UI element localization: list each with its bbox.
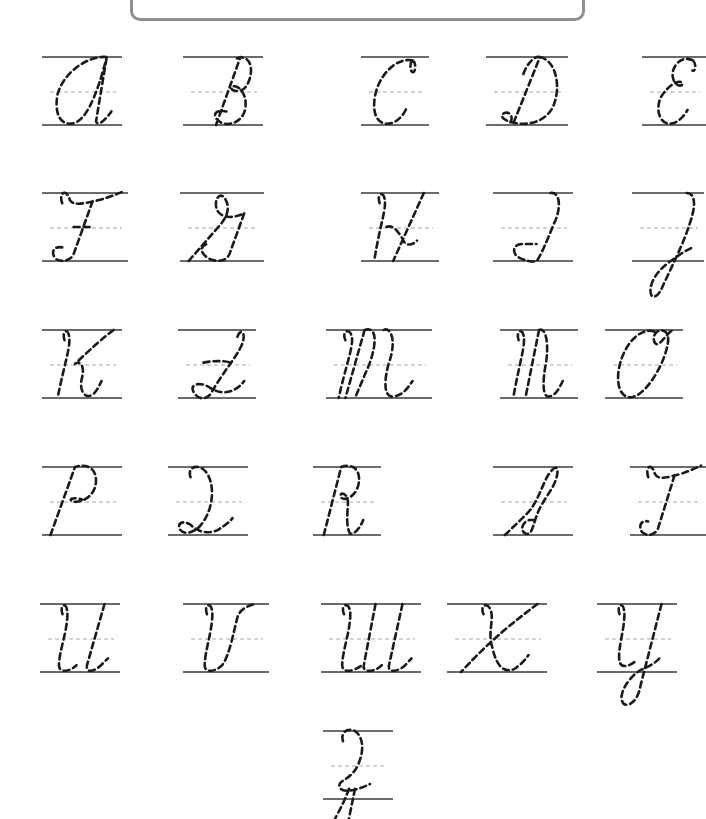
cursive-letter-c-guide	[361, 57, 429, 125]
tracing-cell-d: D	[486, 57, 568, 125]
cursive-letter-u-guide	[40, 604, 120, 672]
cursive-letter-l-guide	[178, 330, 256, 398]
tracing-cell-u: U	[40, 604, 120, 672]
tracing-cell-x: X	[447, 604, 547, 672]
tracing-cell-i: I	[493, 193, 573, 261]
dashed-trace-stroke	[205, 604, 255, 671]
cursive-letter-m-guide	[326, 330, 432, 398]
dashed-trace-stroke	[619, 604, 662, 705]
tracing-cell-f: F	[42, 193, 128, 261]
dashed-trace-stroke	[461, 604, 538, 672]
tracing-cell-r: R	[313, 467, 381, 535]
cursive-letter-k-guide	[42, 330, 122, 398]
dashed-trace-stroke	[179, 467, 232, 533]
dashed-trace-stroke	[502, 57, 557, 125]
cursive-letter-a-guide	[42, 57, 122, 125]
cursive-letter-j-guide	[632, 193, 704, 261]
dashed-trace-stroke	[342, 604, 411, 671]
tracing-cell-e: E	[642, 57, 706, 125]
dashed-trace-stroke	[514, 193, 559, 262]
tracing-cell-w: W	[321, 604, 421, 672]
dashed-trace-stroke	[339, 329, 413, 398]
tracing-cell-v: V	[183, 604, 269, 672]
cursive-letter-q-guide	[168, 467, 248, 535]
tracing-cell-k: K	[42, 330, 122, 398]
cursive-letter-n-guide	[500, 330, 578, 398]
cursive-letter-z-guide	[323, 731, 393, 799]
dashed-trace-stroke	[374, 60, 415, 124]
cursive-letter-o-guide	[605, 330, 683, 398]
tracing-cell-c: C	[361, 57, 429, 125]
tracing-cell-a: A	[42, 57, 122, 125]
dashed-trace-stroke	[215, 57, 251, 125]
tracing-cell-o: O	[605, 330, 683, 398]
dashed-trace-stroke	[53, 192, 123, 261]
dashed-trace-stroke	[57, 57, 112, 124]
cursive-letter-y-guide	[597, 604, 677, 672]
tracing-cell-m: M	[326, 330, 432, 398]
cursive-letter-h-guide	[361, 193, 439, 261]
cursive-letter-i-guide	[493, 193, 573, 261]
dashed-trace-stroke	[640, 466, 701, 535]
dashed-trace-stroke	[658, 59, 695, 124]
dashed-trace-stroke	[58, 330, 114, 398]
cursive-letter-g-guide	[180, 193, 264, 261]
tracing-cell-h: H	[361, 193, 439, 261]
tracing-cell-p: P	[42, 467, 122, 535]
cursive-letter-p-guide	[42, 467, 122, 535]
cursive-letter-x-guide	[447, 604, 547, 672]
dashed-trace-stroke	[51, 466, 97, 535]
cursive-letter-w-guide	[321, 604, 421, 672]
dashed-trace-stroke	[328, 730, 370, 819]
worksheet-title-box	[130, 0, 585, 21]
tracing-cell-b: B	[183, 57, 263, 125]
cursive-letter-t-guide	[630, 467, 706, 535]
dashed-trace-stroke	[59, 604, 108, 671]
tracing-cell-y: Y	[597, 604, 677, 672]
tracing-cell-n: N	[500, 330, 578, 398]
cursive-letter-b-guide	[183, 57, 263, 125]
dashed-trace-stroke	[505, 468, 558, 535]
cursive-letter-d-guide	[486, 57, 568, 125]
dashed-trace-stroke	[650, 193, 694, 297]
dashed-trace-stroke	[374, 193, 424, 261]
cursive-letter-r-guide	[313, 467, 381, 535]
tracing-cell-z: Z	[323, 731, 393, 799]
tracing-cell-q: Q	[168, 467, 248, 535]
cursive-letter-e-guide	[642, 57, 706, 125]
cursive-letter-v-guide	[183, 604, 269, 672]
cursive-letter-f-guide	[42, 193, 128, 261]
tracing-cell-l: L	[178, 330, 256, 398]
tracing-cell-j: J	[632, 193, 704, 261]
dashed-trace-stroke	[513, 330, 563, 398]
dashed-trace-stroke	[618, 330, 673, 397]
tracing-cell-s: S	[493, 467, 573, 535]
tracing-cell-t: T	[630, 467, 706, 535]
tracing-cell-g: G	[180, 193, 264, 261]
cursive-letter-s-guide	[493, 467, 573, 535]
dashed-trace-stroke	[324, 466, 363, 535]
